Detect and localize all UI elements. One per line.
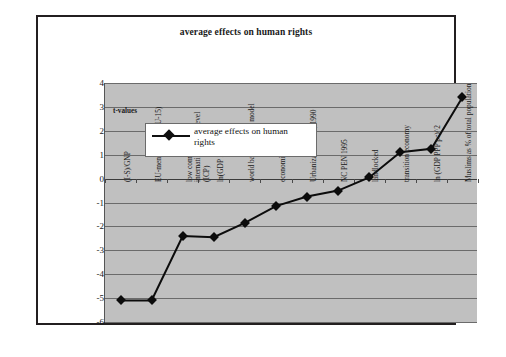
x-axis-category-label: transition economy: [403, 125, 411, 182]
y-axis-tick-label: -2: [78, 221, 104, 231]
legend-label-line-2: rights: [194, 137, 215, 147]
legend-marker: [152, 131, 190, 141]
y-axis-tick-label: -6: [78, 317, 104, 327]
y-axis-tick-label: -4: [78, 269, 104, 279]
y-axis-tick-label: 3: [78, 102, 104, 112]
y-axis-tick-labels: 43210-1-2-3-4-5-6: [74, 83, 104, 322]
x-axis-category-label: NC PEN 1995: [341, 139, 349, 182]
y-axis-tick-label: -5: [78, 293, 104, 303]
y-axis-tick-label: 0: [78, 174, 104, 184]
gridline: [105, 322, 477, 323]
plot-area: t-values (I-S)/GNPEU-membership (EU-15)l…: [104, 83, 477, 322]
legend-label: average effects on human rights: [194, 126, 314, 148]
y-axis-tick-label: -3: [78, 245, 104, 255]
x-axis-category-label: ln (GDP PPP pc)^2: [434, 125, 442, 182]
x-axis-category-label: (I-S)/GNP: [124, 151, 132, 182]
y-axis-tick-label: 1: [78, 150, 104, 160]
x-axis-category-label: Muslims as % of total population: [465, 83, 473, 181]
chart-frame: average effects on human rights 43210-1-…: [36, 15, 456, 325]
chart-legend: average effects on human rights: [145, 123, 317, 157]
y-axis-tick-label: -1: [78, 198, 104, 208]
y-axis-tick-label: 4: [78, 78, 104, 88]
legend-label-line-1: average effects on human: [194, 126, 288, 136]
y-axis-tick-label: 2: [78, 126, 104, 136]
x-axis-category-label: landlocked: [372, 149, 380, 181]
x-axis-tick-mark: [478, 179, 479, 183]
legend-diamond-icon: [163, 129, 174, 140]
chart-title: average effects on human rights: [38, 27, 454, 37]
